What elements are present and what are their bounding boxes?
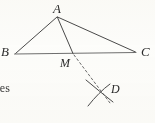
segment-ac xyxy=(58,17,136,52)
segment-ab xyxy=(16,17,58,54)
vertex-label-a: A xyxy=(53,2,61,15)
point-label-m: M xyxy=(60,57,70,69)
segment-bc xyxy=(15,53,137,55)
construction-arc-2 xyxy=(88,84,110,106)
figure-page: A B C M D ces xyxy=(0,0,155,123)
point-label-d: D xyxy=(111,83,120,95)
geometry-figure xyxy=(0,0,155,123)
vertex-label-b: B xyxy=(1,45,9,58)
vertex-label-c: C xyxy=(141,45,150,58)
body-text-fragment: ces xyxy=(0,81,10,96)
construction-arc-1 xyxy=(86,80,113,102)
